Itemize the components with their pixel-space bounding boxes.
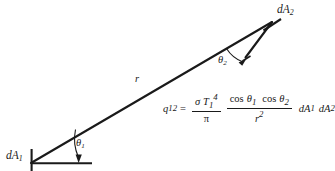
equation-area-term-1-base: dA xyxy=(299,103,311,114)
view-factor-equation: q12 = σT14 π cosθ1cosθ2 r2 dA1 dA2 xyxy=(163,93,335,124)
temperature-sup: 4 xyxy=(213,92,217,102)
radiation-view-factor-diagram: dA1 dA2 θ1 θ2 r q12 = σT14 π cosθ1cosθ2 xyxy=(0,0,335,171)
label-angle-1-sub: 1 xyxy=(81,142,85,150)
equation-fraction1-denominator: π xyxy=(201,112,212,124)
diagram-geometry xyxy=(0,0,335,171)
equation-fraction2-numerator: cosθ1cosθ2 xyxy=(227,93,292,108)
equation-equals-sign: = xyxy=(180,103,186,114)
sigma-symbol: σ xyxy=(195,96,200,107)
equation-area-term-2: dA2 xyxy=(319,103,335,114)
label-area-element-2-sub: 2 xyxy=(290,8,294,17)
equation-area-term-1-sub: 1 xyxy=(310,103,314,113)
equation-lhs-sub: 12 xyxy=(168,103,177,113)
equation-area-term-1: dA1 xyxy=(299,103,315,114)
label-area-element-1-base: dA xyxy=(6,149,19,161)
angle-arc-2 xyxy=(227,49,244,63)
label-angle-2-sub: 2 xyxy=(223,59,227,67)
equation-cosine-fraction: cosθ1cosθ2 r2 xyxy=(227,93,292,124)
angle-arrow-2 xyxy=(239,59,247,66)
cos-operator-1: cos xyxy=(230,93,244,104)
equation-emissive-power-fraction: σT14 π xyxy=(192,93,221,124)
equation-area-term-2-sub: 2 xyxy=(331,103,335,113)
equation-lhs: q12 xyxy=(163,103,177,114)
label-area-element-1: dA1 xyxy=(6,150,23,162)
label-area-element-1-sub: 1 xyxy=(19,154,23,163)
angle-arrow-1 xyxy=(76,155,82,164)
label-angle-2: θ2 xyxy=(218,55,227,66)
label-angle-1: θ1 xyxy=(76,138,85,149)
label-area-element-2-base: dA xyxy=(277,3,290,15)
cos-angle-2-sub: 2 xyxy=(284,97,288,107)
equation-fraction2-denominator: r2 xyxy=(252,109,266,124)
equation-area-term-2-base: dA xyxy=(319,103,331,114)
label-distance-r: r xyxy=(135,74,139,85)
radius-exponent: 2 xyxy=(259,109,263,119)
label-distance-r-base: r xyxy=(135,73,139,84)
equation-fraction1-numerator: σT14 xyxy=(192,93,221,111)
cos-operator-2: cos xyxy=(262,93,276,104)
cos-angle-1-sub: 1 xyxy=(252,97,256,107)
label-area-element-2: dA2 xyxy=(277,4,294,16)
